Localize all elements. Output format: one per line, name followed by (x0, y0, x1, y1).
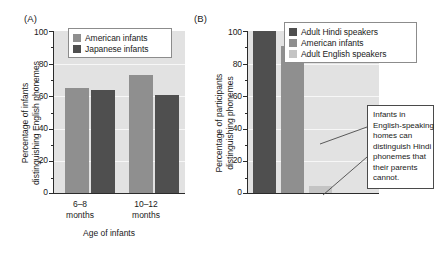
annotation-line-2: English-speaking (373, 121, 428, 132)
callout-leader-line-american-infants (320, 127, 367, 144)
panel-b-tick-80 (243, 64, 247, 65)
panel-b: (B) Percentage of participants distingui… (218, 0, 436, 272)
panel-a-label: (A) (24, 13, 37, 24)
panel-a-bar-japanese-6-8 (91, 90, 115, 194)
legend-swatch-icon-japanese-infants (73, 45, 81, 53)
panel-b-tick-40 (243, 129, 247, 130)
panel-a-ytick-80: 80 (26, 59, 48, 69)
panel-a-tick-20 (49, 161, 53, 162)
panel-a-x-axis-title: Age of infants (0, 228, 218, 238)
panel-a-tick-80 (49, 64, 53, 65)
annotation-callout: Infants in English-speaking homes can di… (367, 105, 434, 189)
legend-swatch-icon-american-infants (73, 34, 81, 42)
panel-b-legend: Adult Hindi speakers American infants Ad… (284, 22, 417, 63)
panel-b-legend-label-adult-english-speakers: Adult English speakers (301, 49, 386, 59)
panel-a-tick-40 (49, 129, 53, 130)
panel-b-legend-item-american-infants: American infants (289, 37, 411, 48)
annotation-line-3: homes can (373, 131, 428, 142)
panel-a-ytick-40: 40 (26, 123, 48, 133)
panel-a-legend-label-american-infants: American infants (85, 33, 148, 43)
annotation-line-4: distinguish Hindi (373, 142, 428, 153)
legend-swatch-icon-adult-hindi-speakers (289, 28, 297, 36)
panel-a: (A) Percentage of infants distinguishing… (0, 0, 218, 272)
panel-a-category-10-12-months: 10–12 months (124, 199, 168, 220)
panel-b-y-axis-line (247, 31, 248, 194)
legend-swatch-icon-adult-english-speakers (289, 50, 297, 58)
panel-b-legend-item-adult-hindi-speakers: Adult Hindi speakers (289, 26, 411, 37)
panel-b-tick-50 (245, 113, 248, 114)
annotation-line-6: their parents (373, 163, 428, 174)
panel-a-tick-100 (49, 31, 53, 32)
panel-a-bar-japanese-10-12 (155, 95, 179, 194)
panel-a-tick-10 (51, 178, 54, 179)
panel-a-category-6-8-line-2: months (60, 210, 100, 221)
panel-a-bar-american-10-12 (129, 75, 153, 194)
panel-a-ytick-60: 60 (26, 91, 48, 101)
panel-b-tick-30 (245, 145, 248, 146)
panel-b-legend-label-american-infants: American infants (301, 38, 364, 48)
panel-a-tick-90 (51, 47, 54, 48)
panel-b-legend-label-adult-hindi-speakers: Adult Hindi speakers (301, 27, 378, 37)
panel-b-tick-10 (245, 178, 248, 179)
annotation-line-5: phonemes that (373, 152, 428, 163)
panel-b-ytick-60: 60 (220, 91, 242, 101)
panel-a-tick-30 (51, 145, 54, 146)
panel-a-gridline-80 (53, 64, 185, 65)
panel-a-bar-american-6-8 (65, 88, 89, 194)
panel-b-ytick-40: 40 (220, 123, 242, 133)
panel-b-tick-100 (243, 31, 247, 32)
panel-b-tick-0 (243, 193, 247, 194)
panel-b-tick-70 (245, 80, 248, 81)
panel-a-legend-label-japanese-infants: Japanese infants (85, 44, 148, 54)
panel-b-tick-90 (245, 47, 248, 48)
panel-b-ytick-100: 100 (220, 27, 242, 37)
panel-a-tick-50 (51, 113, 54, 114)
panel-a-legend-item-american-infants: American infants (73, 32, 166, 43)
panel-a-legend-item-japanese-infants: Japanese infants (73, 43, 166, 54)
panel-a-legend: American infants Japanese infants (68, 28, 172, 58)
annotation-line-7: cannot. (373, 173, 428, 184)
panel-a-tick-70 (51, 80, 54, 81)
annotation-line-1: Infants in (373, 110, 428, 121)
panel-b-ytick-20: 20 (220, 155, 242, 165)
panel-a-category-10-12-line-2: months (124, 210, 168, 221)
panel-b-legend-item-adult-english-speakers: Adult English speakers (289, 48, 411, 59)
panel-a-ytick-20: 20 (26, 155, 48, 165)
panel-a-category-6-8-months: 6–8 months (60, 199, 100, 220)
panel-b-label: (B) (194, 13, 207, 24)
legend-swatch-icon-american-infants-b (289, 39, 297, 47)
panel-a-y-axis-line (53, 31, 54, 194)
callout-leader-line-adult-english-speakers (323, 157, 367, 195)
panel-a-category-6-8-line-1: 6–8 (60, 199, 100, 210)
panel-a-tick-0 (49, 193, 53, 194)
panel-b-tick-60 (243, 96, 247, 97)
panel-b-tick-20 (243, 161, 247, 162)
panel-a-x-axis-line (53, 193, 185, 194)
panel-b-bar-adult-hindi-speakers (253, 31, 276, 194)
panel-a-ytick-0: 0 (26, 187, 48, 197)
panel-b-ytick-0: 0 (220, 187, 242, 197)
panel-b-ytick-80: 80 (220, 59, 242, 69)
panel-a-ytick-100: 100 (26, 27, 48, 37)
panel-a-category-10-12-line-1: 10–12 (124, 199, 168, 210)
panel-a-tick-60 (49, 96, 53, 97)
